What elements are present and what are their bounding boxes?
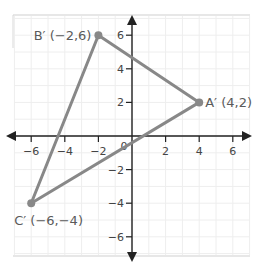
vertex-label: C′ (−6,−4)	[14, 213, 83, 228]
coordinate-plane: −6−4−2246642−2−4−60 A′ (4,2)B′ (−2,6)C′ …	[0, 0, 261, 267]
x-axis-left-arrow-icon	[6, 131, 16, 141]
y-tick-label: −4	[108, 197, 124, 210]
y-tick-label: 4	[117, 63, 124, 76]
vertex-point	[195, 98, 203, 106]
y-tick-label: 6	[117, 29, 124, 42]
y-tick-label: −2	[108, 164, 124, 177]
x-tick-label: 4	[196, 145, 203, 158]
x-tick-label: −2	[90, 145, 106, 158]
x-tick-label: −4	[57, 145, 73, 158]
y-axis-down-arrow-icon	[127, 252, 137, 262]
vertex-point	[94, 31, 102, 39]
y-tick-label: −6	[108, 231, 124, 244]
y-tick-label: 2	[117, 96, 124, 109]
x-tick-label: −6	[23, 145, 39, 158]
y-axis-up-arrow-icon	[127, 15, 137, 25]
x-tick-label: 2	[162, 145, 169, 158]
vertex-point	[27, 199, 35, 207]
vertex-label: B′ (−2,6)	[34, 28, 92, 43]
vertex-label: A′ (4,2)	[205, 95, 252, 110]
x-axis-right-arrow-icon	[242, 131, 252, 141]
x-tick-label: 6	[229, 145, 236, 158]
